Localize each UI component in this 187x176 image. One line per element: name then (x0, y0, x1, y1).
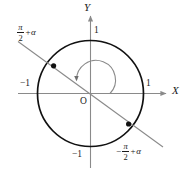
tick-label-x-left: −1 (20, 79, 30, 89)
angle-operator-lower-right: + (130, 147, 137, 156)
angle-variable-lower-right: α (136, 147, 141, 156)
angle-variable-upper-left: α (31, 28, 36, 37)
fraction-numerator-lower-right: π (122, 142, 128, 151)
point-upper-left (51, 63, 56, 68)
unit-circle-figure: Y X 1 1 −1 −1 O π 2 + α − π 2 + α (0, 0, 187, 176)
origin-label: O (80, 97, 87, 107)
fraction-lower-right: π 2 (122, 142, 130, 161)
tick-label-x-right: 1 (146, 79, 151, 89)
fraction-numerator-upper-left: π (17, 23, 23, 32)
angle-label-upper-left: π 2 + α (16, 23, 36, 42)
fraction-upper-left: π 2 (17, 23, 25, 42)
tick-label-y-bottom: −1 (72, 150, 82, 160)
angle-label-lower-right: − π 2 + α (116, 142, 141, 161)
fraction-denominator-upper-left: 2 (17, 33, 23, 42)
angle-operator-upper-left: + (25, 28, 32, 37)
y-axis-label: Y (84, 2, 90, 13)
tick-label-y-top: 1 (94, 26, 99, 36)
point-lower-right (126, 121, 131, 126)
fraction-denominator-lower-right: 2 (122, 152, 128, 161)
x-axis-label: X (172, 85, 179, 96)
